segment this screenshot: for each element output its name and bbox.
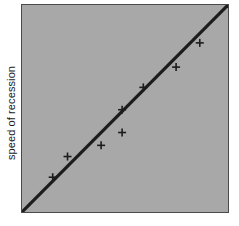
- data-point-marker: [118, 129, 126, 137]
- data-point-marker: [196, 39, 204, 47]
- plot-canvas: [22, 5, 228, 212]
- data-point-marker: [97, 141, 105, 149]
- data-point-marker: [64, 153, 72, 161]
- data-point-marker: [139, 83, 147, 91]
- plot-area: [21, 4, 229, 213]
- y-axis-label-container: speed of recession: [0, 0, 21, 226]
- y-axis-label: speed of recession: [5, 66, 17, 160]
- scatter-plot-figure: speed of recession: [0, 0, 239, 226]
- data-point-marker: [172, 63, 180, 71]
